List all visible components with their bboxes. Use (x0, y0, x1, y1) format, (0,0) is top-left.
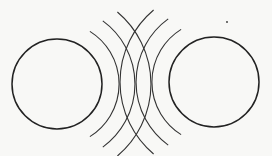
left-arc-3 (117, 12, 151, 156)
diagram-svg (0, 0, 272, 156)
right-arc-1 (152, 29, 181, 134)
right-arc-3 (120, 10, 154, 154)
wavefront-arcs (90, 10, 181, 156)
right-circle (169, 37, 259, 127)
left-arc-1 (90, 31, 119, 136)
left-circle (12, 39, 102, 129)
dot-mark (226, 21, 228, 23)
diagram-canvas (0, 0, 272, 156)
